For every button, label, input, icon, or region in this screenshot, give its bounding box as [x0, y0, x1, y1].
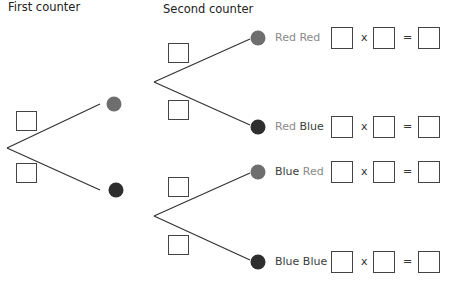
answer-box-result[interactable]: [418, 161, 440, 183]
answer-box-2[interactable]: [373, 251, 395, 273]
prob-box-first-red[interactable]: [16, 111, 37, 131]
answer-box-2[interactable]: [373, 27, 395, 49]
equals-sign: =: [403, 120, 412, 133]
answer-box-1[interactable]: [331, 161, 353, 183]
blue-counter-icon: [251, 255, 266, 270]
blue-counter-icon: [109, 183, 124, 198]
equals-sign: =: [403, 31, 412, 44]
answer-box-result[interactable]: [418, 251, 440, 273]
outcome-label-second: Blue: [299, 120, 323, 133]
answer-box-1[interactable]: [331, 251, 353, 273]
answer-box-2[interactable]: [373, 116, 395, 138]
answer-box-result[interactable]: [418, 27, 440, 49]
outcome-label-first: Blue: [275, 165, 299, 178]
times-sign: x: [361, 165, 368, 178]
outcome-label-first: Red: [275, 31, 296, 44]
answer-box-1[interactable]: [331, 27, 353, 49]
prob-box-blue-then-blue[interactable]: [168, 235, 189, 255]
red-counter-icon: [107, 97, 122, 112]
equals-sign: =: [403, 255, 412, 268]
outcome-label-first: Red: [275, 120, 296, 133]
times-sign: x: [361, 255, 368, 268]
outcome-label-first: Blue: [275, 255, 299, 268]
blue-counter-icon: [251, 120, 266, 135]
answer-box-2[interactable]: [373, 161, 395, 183]
red-counter-icon: [251, 165, 266, 180]
equals-sign: =: [403, 165, 412, 178]
times-sign: x: [361, 31, 368, 44]
red-counter-icon: [251, 31, 266, 46]
answer-box-result[interactable]: [418, 116, 440, 138]
outcome-label-second: Red: [303, 165, 324, 178]
prob-box-first-blue[interactable]: [16, 163, 37, 183]
outcome-label-second: Red: [299, 31, 320, 44]
times-sign: x: [361, 120, 368, 133]
prob-box-red-then-blue[interactable]: [168, 100, 189, 120]
outcome-label-second: Blue: [303, 255, 327, 268]
prob-box-blue-then-red[interactable]: [168, 177, 189, 197]
answer-box-1[interactable]: [331, 116, 353, 138]
prob-box-red-then-red[interactable]: [168, 43, 189, 63]
